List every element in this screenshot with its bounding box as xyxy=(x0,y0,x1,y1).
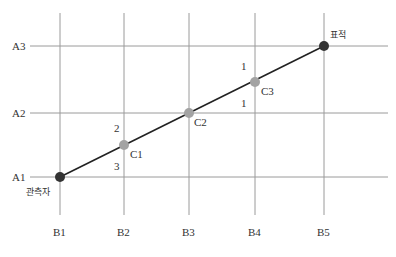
c3-below-number: 1 xyxy=(241,97,247,109)
horizontal-gridlines xyxy=(30,46,388,177)
col-label-b5: B5 xyxy=(317,226,330,238)
c3-point xyxy=(250,77,260,87)
c1-below-number: 3 xyxy=(114,160,120,172)
row-label-a2: A2 xyxy=(12,107,25,119)
c2-point xyxy=(184,108,194,118)
c3-label: C3 xyxy=(261,85,274,97)
c1-label: C1 xyxy=(130,148,143,160)
target-label: 표적 xyxy=(330,29,346,40)
c3-above-number: 1 xyxy=(241,60,247,72)
col-label-b2: B2 xyxy=(117,226,130,238)
line-of-sight-grid-diagram: A3 A2 A1 B1 B2 B3 B4 B5 관측자 C1 C2 C3 표적 … xyxy=(0,0,396,257)
c2-label: C2 xyxy=(194,116,207,128)
observer-label: 관측자 xyxy=(26,187,51,197)
c1-point xyxy=(119,140,129,150)
col-label-b4: B4 xyxy=(248,226,261,238)
c1-above-number: 2 xyxy=(114,122,120,134)
row-label-a3: A3 xyxy=(12,40,26,52)
col-label-b1: B1 xyxy=(53,226,66,238)
row-label-a1: A1 xyxy=(12,171,25,183)
target-point xyxy=(319,41,329,51)
col-label-b3: B3 xyxy=(182,226,195,238)
observer-point xyxy=(55,172,65,182)
